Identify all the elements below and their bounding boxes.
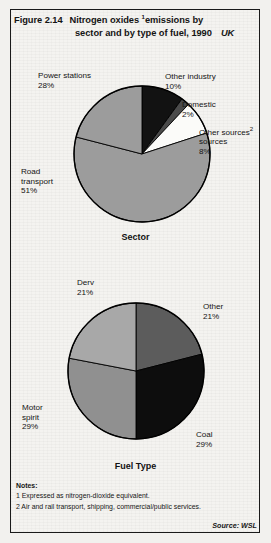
label-other-industry-value: 10% <box>165 82 181 91</box>
label-domestic-value: 2% <box>182 110 194 119</box>
label-other-fuel-name: Other <box>203 302 223 311</box>
title-line-1: Figure 2.14Nitrogen oxides 1emissions by <box>14 11 238 27</box>
label-derv-name: Derv <box>77 278 94 287</box>
label-road-transport-name: Road <box>21 167 40 176</box>
title-main-text-rest: emissions by <box>145 15 203 25</box>
label-other-fuel: Other 21% <box>203 302 223 321</box>
figure-title-block: Figure 2.14Nitrogen oxides 1emissions by… <box>14 11 238 39</box>
region-label: UK <box>221 28 234 38</box>
label-other-industry: Other industry 10% <box>165 72 216 91</box>
label-other-industry-name: Other industry <box>165 72 216 81</box>
label-road-transport: Road transport 51% <box>21 167 53 196</box>
fuel-type-pie-svg <box>65 300 207 442</box>
label-other-sources-name: Other sources <box>199 128 250 137</box>
title-subject: sector and by type of fuel, 1990 <box>75 28 212 38</box>
note-item-1: 1 Expressed as nitrogen-dioxide equivale… <box>16 491 236 501</box>
figure-number: Figure 2.14 <box>14 15 63 25</box>
note-item-2: 2 Air and rail transport, shipping, comm… <box>16 502 236 512</box>
label-road-transport-name2: transport <box>21 177 53 186</box>
title-line-2: sector and by type of fuel, 1990UK <box>14 27 238 40</box>
label-motor-spirit: Motor spirit 29% <box>22 403 43 432</box>
label-domestic: Domestic 2% <box>182 100 216 119</box>
label-road-transport-value: 51% <box>21 186 37 195</box>
notes-block: Notes: 1 Expressed as nitrogen-dioxide e… <box>16 481 236 512</box>
label-other-sources-value: 8% <box>199 147 211 156</box>
source-attribution: Source: WSL <box>212 521 257 530</box>
label-power-stations: Power stations 28% <box>38 71 91 90</box>
title-main-text: Nitrogen oxides <box>70 15 142 25</box>
label-other-sources: Other sources2 sources 8% <box>199 124 253 156</box>
label-motor-spirit-name2: spirit <box>22 413 39 422</box>
label-domestic-name: Domestic <box>182 100 216 109</box>
fuel-type-chart-caption: Fuel Type <box>0 461 271 471</box>
label-coal: Coal 29% <box>196 430 213 449</box>
fuel-type-pie-chart <box>65 300 207 442</box>
label-power-stations-name: Power stations <box>38 71 91 80</box>
sector-chart-caption: Sector <box>0 232 271 242</box>
label-other-fuel-value: 21% <box>203 312 219 321</box>
label-derv-value: 21% <box>77 288 93 297</box>
label-other-sources-footnote: 2 <box>250 125 253 132</box>
notes-heading: Notes: <box>16 481 236 491</box>
label-other-sources-name2: sources <box>199 137 227 146</box>
label-motor-spirit-name: Motor <box>22 403 43 412</box>
label-coal-value: 29% <box>196 440 212 449</box>
label-coal-name: Coal <box>196 430 213 439</box>
label-motor-spirit-value: 29% <box>22 422 38 431</box>
label-power-stations-value: 28% <box>38 81 54 90</box>
label-derv: Derv 21% <box>77 278 94 297</box>
slice-motor-spirit <box>68 358 136 439</box>
